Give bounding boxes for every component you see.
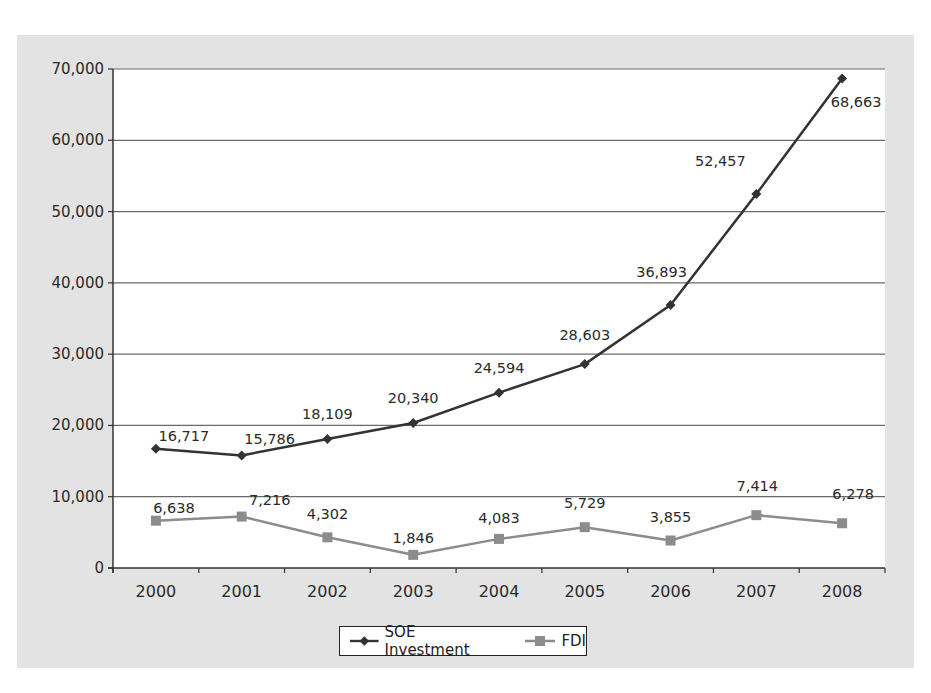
legend-item-fdi: FDI [525, 632, 586, 650]
data-point-marker [837, 518, 847, 528]
y-tick-label: 10,000 [52, 488, 105, 506]
x-axis-tick-labels: 200020012002200320042005200620072008 [136, 582, 863, 601]
data-point-marker [151, 516, 161, 526]
data-label: 4,302 [307, 506, 349, 522]
diamond-marker-icon [350, 635, 379, 647]
data-label: 18,109 [302, 406, 353, 422]
x-tick-label: 2001 [221, 582, 262, 601]
data-label: 7,414 [737, 478, 779, 494]
data-label: 36,893 [636, 264, 687, 280]
data-label: 52,457 [695, 153, 746, 169]
y-tick-label: 20,000 [52, 416, 105, 434]
data-label: 7,216 [249, 492, 291, 508]
y-axis-tick-labels: 010,00020,00030,00040,00050,00060,00070,… [52, 60, 105, 577]
chart-legend: SOE Investment FDI [339, 626, 587, 656]
data-label: 15,786 [244, 431, 295, 447]
data-label: 28,603 [559, 327, 610, 343]
x-tick-label: 2005 [564, 582, 605, 601]
y-tick-label: 40,000 [52, 274, 105, 292]
x-tick-label: 2002 [307, 582, 348, 601]
data-label: 20,340 [388, 390, 439, 406]
data-label: 68,663 [831, 94, 882, 110]
x-tick-label: 2008 [822, 582, 863, 601]
x-tick-label: 2000 [136, 582, 177, 601]
data-label: 3,855 [650, 509, 692, 525]
data-label: 24,594 [474, 360, 525, 376]
y-tick-label: 60,000 [52, 131, 105, 149]
data-label: 5,729 [564, 495, 606, 511]
x-tick-label: 2004 [479, 582, 520, 601]
legend-item-soe-investment: SOE Investment [350, 623, 499, 659]
data-label: 6,638 [153, 500, 195, 516]
y-tick-label: 70,000 [52, 60, 105, 78]
data-point-marker [322, 532, 332, 542]
square-marker-icon [525, 635, 555, 647]
data-label: 16,717 [159, 428, 210, 444]
data-label: 6,278 [832, 486, 874, 502]
data-point-marker [580, 522, 590, 532]
data-point-marker [408, 550, 418, 560]
y-tick-label: 50,000 [52, 203, 105, 221]
data-point-marker [237, 512, 247, 522]
data-label: 4,083 [478, 510, 520, 526]
data-label: 1,846 [392, 530, 434, 546]
data-point-marker [494, 534, 504, 544]
y-tick-label: 30,000 [52, 345, 105, 363]
data-point-marker [751, 510, 761, 520]
y-tick-label: 0 [94, 559, 104, 577]
x-tick-label: 2006 [650, 582, 691, 601]
x-tick-label: 2003 [393, 582, 434, 601]
legend-label: FDI [561, 632, 586, 650]
x-tick-label: 2007 [736, 582, 777, 601]
legend-label: SOE Investment [385, 623, 500, 659]
line-chart: 010,00020,00030,00040,00050,00060,00070,… [0, 0, 931, 693]
data-point-marker [666, 536, 676, 546]
